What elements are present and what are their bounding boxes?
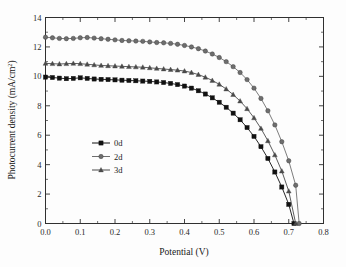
y-axis-title: Photocurrent density (mA/cm2) (6, 60, 18, 179)
x-tick-label: 0.6 (249, 227, 260, 237)
series-markers-0d (43, 75, 296, 226)
y-axis-major-ticks (46, 18, 324, 224)
figure-container: 0.00.10.20.30.40.50.60.70.8 02468101214 … (0, 0, 346, 267)
x-tick-label: 0.1 (75, 227, 86, 237)
photocurrent-density-chart: 0.00.10.20.30.40.50.60.70.8 02468101214 … (0, 0, 346, 267)
x-tick-label: 0.5 (214, 227, 225, 237)
legend-label: 2d (114, 152, 123, 162)
x-axis-major-ticks (46, 18, 324, 224)
x-tick-label: 0.2 (110, 227, 121, 237)
series-line-3d (46, 63, 296, 223)
chart-legend: 0d2d3d (92, 138, 123, 175)
y-tick-label: 14 (33, 13, 42, 23)
x-tick-label: 0.0 (40, 227, 51, 237)
x-tick-label: 0.7 (283, 227, 294, 237)
y-tick-label: 8 (37, 101, 41, 111)
y-tick-label: 6 (37, 130, 41, 140)
plot-frame (46, 18, 324, 224)
y-tick-label: 2 (37, 189, 41, 199)
series-0d (43, 75, 296, 226)
x-tick-label: 0.3 (144, 227, 155, 237)
y-axis-minor-ticks (46, 32, 324, 209)
x-axis-title: Potential (V) (159, 247, 208, 258)
legend-item-0d: 0d (92, 138, 123, 148)
legend-label: 0d (114, 138, 123, 148)
series-line-0d (46, 77, 294, 223)
data-series-layer (43, 35, 301, 226)
y-axis-tick-labels: 02468101214 (33, 13, 42, 229)
y-tick-label: 12 (33, 42, 42, 52)
x-axis-tick-labels: 0.00.10.20.30.40.50.60.70.8 (40, 227, 329, 237)
legend-item-3d: 3d (92, 165, 123, 175)
x-tick-label: 0.8 (318, 227, 329, 237)
y-tick-label: 10 (33, 71, 42, 81)
legend-label: 3d (114, 165, 123, 175)
legend-item-2d: 2d (92, 152, 123, 162)
x-axis-minor-ticks (63, 18, 306, 224)
y-tick-label: 0 (37, 219, 41, 229)
y-tick-label: 4 (37, 160, 42, 170)
x-tick-label: 0.4 (179, 227, 190, 237)
